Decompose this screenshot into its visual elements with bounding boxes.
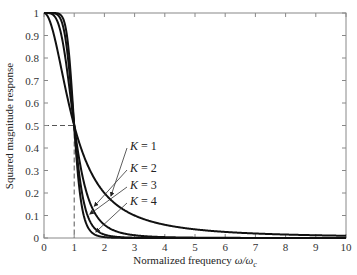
- y-tick-label: 0: [34, 232, 40, 244]
- x-tick-label: 10: [341, 241, 353, 253]
- annotation-k1: K = 1: [129, 139, 157, 153]
- x-tick-label: 8: [283, 241, 289, 253]
- y-tick-label: 1: [34, 7, 40, 19]
- y-tick-label: 0.3: [25, 165, 39, 177]
- x-tick-label: 0: [41, 241, 47, 253]
- x-tick-label: 1: [71, 241, 77, 253]
- y-tick-label: 0.6: [25, 97, 39, 109]
- y-tick-label: 0.8: [25, 52, 39, 64]
- y-tick-label: 0.1: [25, 210, 39, 222]
- x-tick-label: 4: [162, 241, 168, 253]
- butterworth-chart: 012345678910 00.10.20.30.40.50.60.70.80.…: [0, 0, 357, 275]
- y-axis-title: Squared magnitude response: [3, 63, 15, 190]
- curve-k2: [44, 13, 346, 238]
- x-axis-title: Normalized frequency ω/ωc: [133, 254, 257, 269]
- annotation-k2: K = 2: [129, 161, 157, 175]
- plot-frame: [44, 13, 346, 238]
- y-tick-label: 0.7: [25, 75, 39, 87]
- x-tick-label: 2: [102, 241, 108, 253]
- x-tick-label: 9: [313, 241, 319, 253]
- y-tick-label: 0.5: [25, 120, 39, 132]
- y-tick-label: 0.4: [25, 142, 39, 154]
- annotation-k4: K = 4: [129, 194, 157, 208]
- reference-lines: [44, 126, 74, 239]
- x-tick-label: 7: [253, 241, 259, 253]
- annotation-k3: K = 3: [129, 178, 157, 192]
- response-curves: [44, 13, 346, 238]
- x-tick-label: 3: [132, 241, 138, 253]
- y-tick-label: 0.9: [25, 30, 39, 42]
- curve-k4: [44, 13, 346, 238]
- curve-k3: [44, 13, 346, 238]
- x-tick-label: 6: [222, 241, 228, 253]
- y-tick-label: 0.2: [25, 187, 39, 199]
- x-tick-label: 5: [192, 241, 198, 253]
